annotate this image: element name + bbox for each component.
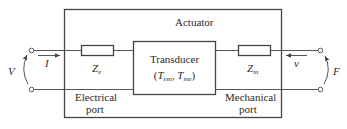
electrical-impedance-resistor xyxy=(82,46,114,56)
actuator-diagram: Actuator Transducer (Tem, Tme) Ze I V El… xyxy=(0,0,347,129)
electrical-impedance-label: Ze xyxy=(92,62,101,76)
electrical-terminal-top xyxy=(29,48,34,53)
transducer-params: (Tem, Tme) xyxy=(154,69,196,83)
mechanical-port-label-line2: port xyxy=(239,103,257,115)
mechanical-impedance-label: Zm xyxy=(247,62,258,76)
electrical-terminal-bottom xyxy=(29,87,34,92)
transducer-box xyxy=(134,42,216,95)
voltage-arc-icon xyxy=(24,55,28,84)
actuator-label: Actuator xyxy=(175,16,214,28)
current-label: I xyxy=(44,57,50,69)
voltage-label: V xyxy=(8,65,16,77)
mechanical-terminal-top xyxy=(318,48,323,53)
electrical-port-label-line2: port xyxy=(86,103,104,115)
mechanical-impedance-resistor xyxy=(239,46,271,56)
force-label: F xyxy=(332,65,340,77)
electrical-port-label: Electrical xyxy=(75,91,117,103)
velocity-label: v xyxy=(294,57,299,69)
mechanical-port-label: Mechanical xyxy=(225,91,276,103)
force-arc-icon xyxy=(324,56,328,84)
transducer-label: Transducer xyxy=(150,53,199,65)
mechanical-terminal-bottom xyxy=(318,87,323,92)
